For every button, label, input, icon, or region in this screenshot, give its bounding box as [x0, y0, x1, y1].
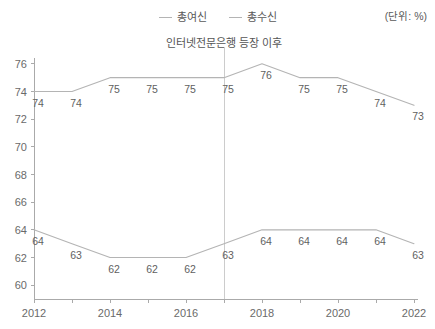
data-point-label: 74 — [70, 97, 82, 109]
y-axis-tick-label: 72 — [0, 113, 27, 125]
x-axis-tick-label: 2016 — [174, 307, 198, 319]
data-point-label: 75 — [184, 83, 196, 95]
data-point-label: 63 — [412, 249, 424, 261]
data-point-label: 64 — [32, 235, 44, 247]
y-axis-tick-label: 66 — [0, 196, 27, 208]
y-axis-tick-label: 76 — [0, 58, 27, 70]
data-point-label: 62 — [146, 263, 158, 275]
data-point-label: 63 — [70, 249, 82, 261]
plot-area — [0, 0, 435, 329]
y-axis-tick-label: 64 — [0, 224, 27, 236]
data-point-label: 74 — [374, 97, 386, 109]
data-point-label: 63 — [222, 249, 234, 261]
data-point-label: 64 — [336, 235, 348, 247]
y-axis-tick-label: 60 — [0, 279, 27, 291]
data-point-label: 75 — [336, 83, 348, 95]
x-axis-tick-label: 2020 — [326, 307, 350, 319]
data-point-label: 62 — [184, 263, 196, 275]
y-axis-tick-label: 70 — [0, 141, 27, 153]
data-point-label: 74 — [32, 97, 44, 109]
data-point-label: 64 — [374, 235, 386, 247]
data-point-label: 75 — [146, 83, 158, 95]
data-point-label: 64 — [260, 235, 272, 247]
data-point-label: 62 — [108, 263, 120, 275]
data-point-label: 75 — [222, 83, 234, 95]
data-point-label: 64 — [298, 235, 310, 247]
x-axis-tick-label: 2022 — [402, 307, 426, 319]
data-point-label: 75 — [108, 83, 120, 95]
data-point-label: 73 — [412, 110, 424, 122]
line-chart: 총여신 총수신 (단위: %) 인터넷전문은행 등장 이후 6062646668… — [0, 0, 435, 329]
x-axis-tick-label: 2012 — [22, 307, 46, 319]
data-point-label: 75 — [298, 83, 310, 95]
x-axis-tick-label: 2018 — [250, 307, 274, 319]
y-axis-tick-label: 68 — [0, 169, 27, 181]
x-axis-tick-label: 2014 — [98, 307, 122, 319]
data-point-label: 76 — [260, 69, 272, 81]
y-axis-tick-label: 74 — [0, 86, 27, 98]
y-axis-tick-label: 62 — [0, 252, 27, 264]
